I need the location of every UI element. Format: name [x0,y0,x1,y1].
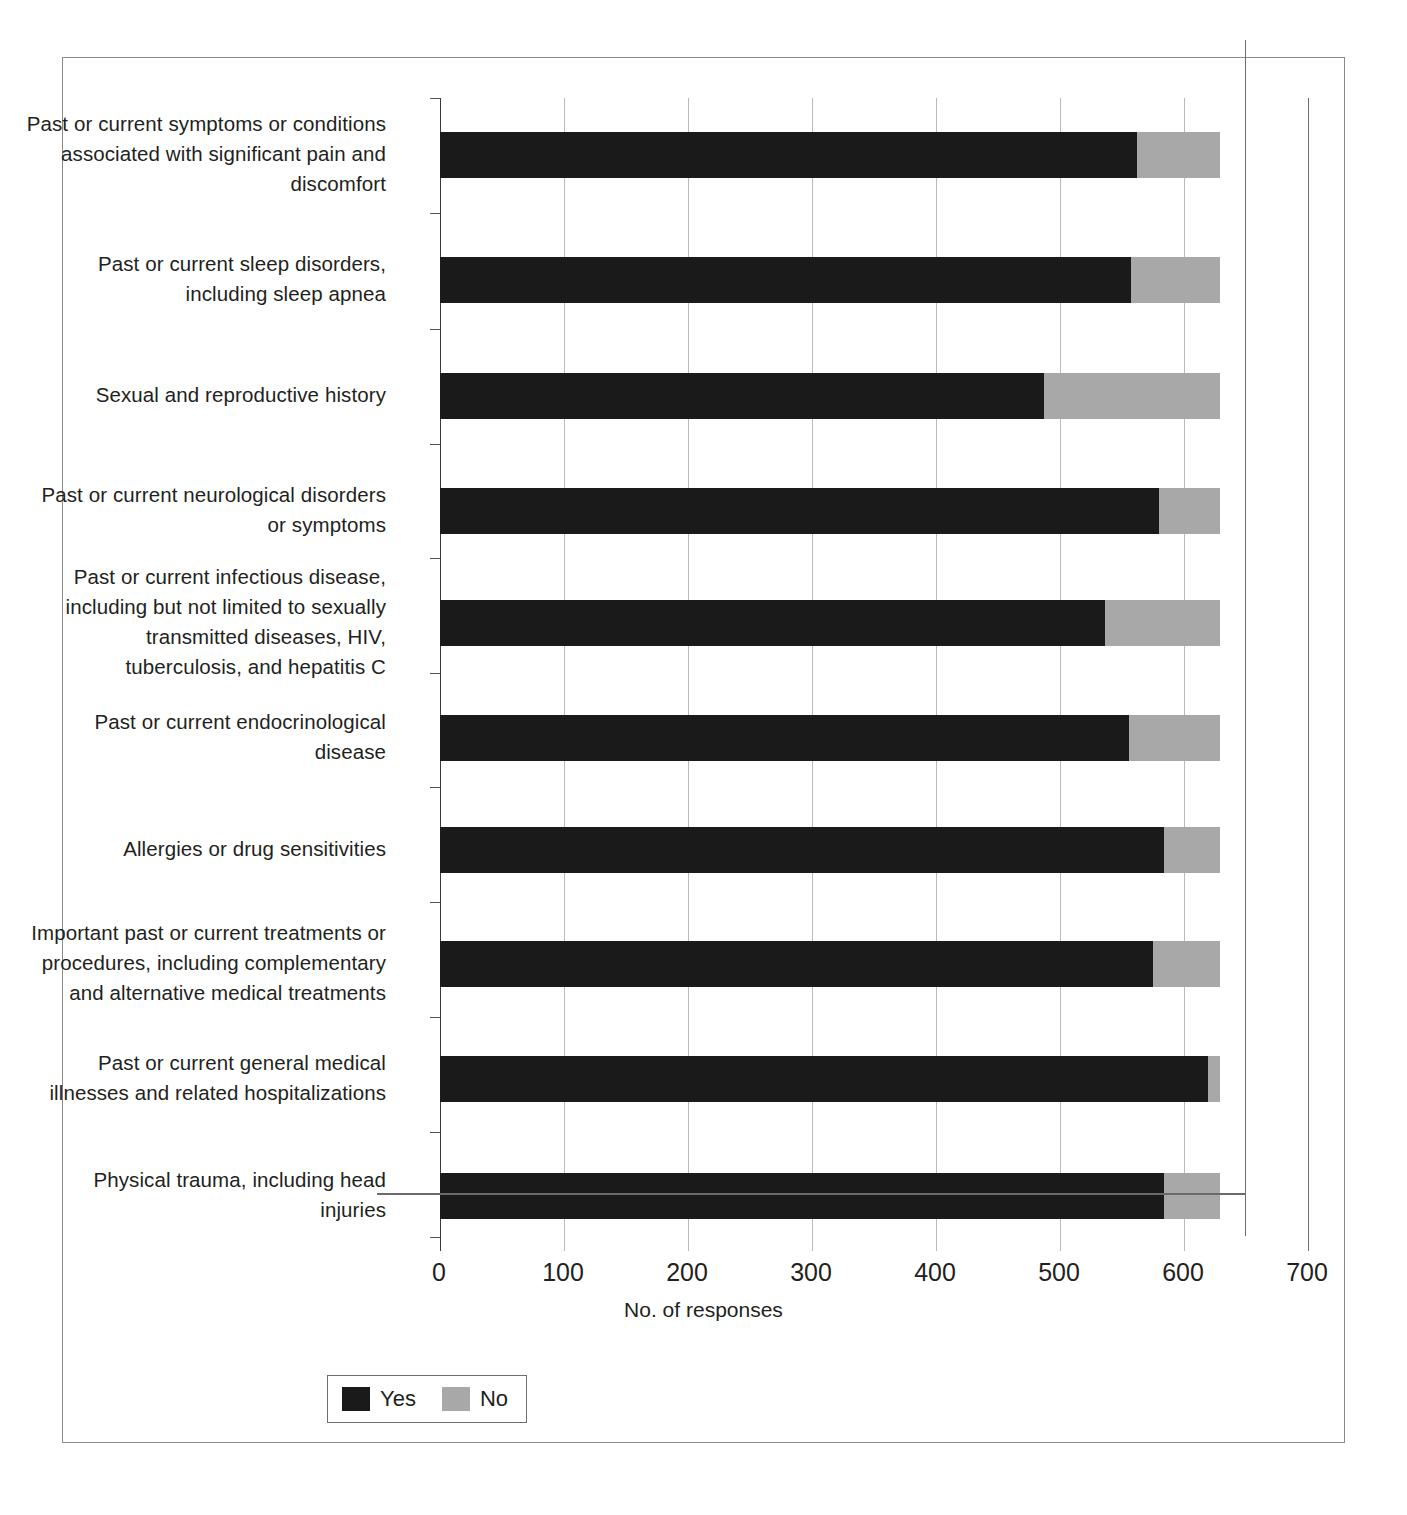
bar-segment-no [1105,600,1220,646]
bar-row [440,1056,1220,1102]
bar-segment-yes [440,373,1044,419]
bar-row [440,488,1220,534]
legend-swatch-icon [442,1387,470,1411]
category-tick [430,1237,440,1238]
legend-item-no[interactable]: No [442,1386,508,1412]
x-tick-label-200: 200 [647,1258,727,1287]
category-tick [430,444,440,445]
x-tick-label-700: 700 [1267,1258,1347,1287]
bar-segment-no [1137,132,1220,178]
x-axis-title: No. of responses [0,1298,1407,1322]
bar-segment-yes [440,827,1164,873]
x-axis-line [377,1193,1246,1195]
bar-row [440,941,1220,987]
bar-segment-no [1044,373,1220,419]
x-tick-label-0: 0 [399,1258,479,1287]
category-label: Past or current neurological disorders o… [26,480,386,540]
plot-area [440,98,1308,1251]
x-tick-label-600: 600 [1143,1258,1223,1287]
bar-row [440,257,1220,303]
category-label: Allergies or drug sensitivities [26,834,386,864]
bar-row [440,715,1220,761]
legend-swatch-icon [342,1387,370,1411]
bar-segment-yes [440,1173,1164,1219]
category-tick [430,673,440,674]
legend-item-yes[interactable]: Yes [342,1386,416,1412]
plot-right-border [1245,40,1246,1236]
bar-row [440,827,1220,873]
category-label: Past or current endocrinological disease [26,707,386,767]
bar-segment-yes [440,488,1159,534]
category-label: Past or current general medical illnesse… [26,1048,386,1108]
bar-segment-yes [440,941,1153,987]
category-tick [430,98,440,99]
bar-segment-yes [440,600,1105,646]
chart-page: Past or current symptoms or conditions a… [0,0,1407,1515]
bar-segment-no [1208,1056,1220,1102]
category-label: Past or current infectious disease, incl… [26,562,386,682]
x-tick-label-500: 500 [1019,1258,1099,1287]
category-tick [430,787,440,788]
bar-segment-yes [440,257,1131,303]
gridline-700 [1308,98,1309,1251]
bar-segment-no [1159,488,1220,534]
bar-segment-no [1164,1173,1220,1219]
category-tick [430,902,440,903]
bar-segment-no [1164,827,1220,873]
x-tick-label-400: 400 [895,1258,975,1287]
category-label: Important past or current treatments or … [26,918,386,1008]
bar-segment-yes [440,132,1137,178]
bar-segment-no [1129,715,1220,761]
category-tick [430,1132,440,1133]
chart-legend: YesNo [327,1375,527,1423]
legend-label: No [480,1386,508,1412]
bar-row [440,373,1220,419]
category-label: Physical trauma, including head injuries [26,1165,386,1225]
category-tick [430,329,440,330]
bar-row [440,1173,1220,1219]
legend-label: Yes [380,1386,416,1412]
category-label: Past or current sleep disorders, includi… [26,249,386,309]
category-tick [430,213,440,214]
category-label: Past or current symptoms or conditions a… [26,109,386,199]
bar-row [440,600,1220,646]
bar-row [440,132,1220,178]
category-label: Sexual and reproductive history [26,380,386,410]
category-tick [430,558,440,559]
category-tick [430,1017,440,1018]
bar-segment-no [1131,257,1220,303]
x-tick-label-300: 300 [771,1258,851,1287]
bar-segment-no [1153,941,1220,987]
bar-segment-yes [440,715,1129,761]
bar-segment-yes [440,1056,1208,1102]
x-tick-label-100: 100 [523,1258,603,1287]
